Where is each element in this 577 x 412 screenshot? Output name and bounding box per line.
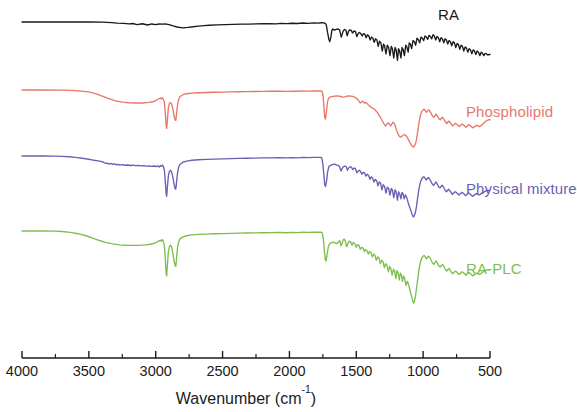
trace-label-phospholipid: Phospholipid [466, 103, 553, 120]
x-axis [22, 351, 490, 358]
x-axis-tick-label: 2500 [206, 363, 238, 379]
x-axis-tick-label: 1000 [407, 363, 439, 379]
x-axis-tick-label: 4000 [6, 363, 38, 379]
spectrum-trace-physical-mixture [22, 156, 490, 217]
x-axis-tick-label: 1500 [340, 363, 372, 379]
x-axis-tick-label: 2000 [273, 363, 305, 379]
spectrum-trace-ra-plc [22, 231, 490, 303]
trace-label-ra-plc: RA-PLC [466, 260, 522, 277]
spectrum-trace-ra [22, 22, 490, 60]
x-axis-tick-labels: 4000350030002500200015001000500 [6, 363, 502, 379]
x-axis-title: Wavenumber (cm-1) [176, 383, 316, 407]
trace-label-ra: RA [438, 6, 459, 23]
spectra-traces [22, 22, 490, 303]
x-axis-tick-label: 500 [478, 363, 502, 379]
trace-label-physical-mixture: Physical mixture [466, 180, 577, 197]
x-axis-tick-label: 3000 [140, 363, 172, 379]
spectrum-trace-phospholipid [22, 90, 490, 147]
x-axis-tick-label: 3500 [73, 363, 105, 379]
